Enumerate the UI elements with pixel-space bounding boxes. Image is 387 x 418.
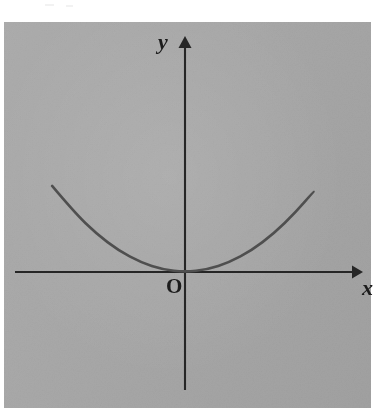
y-axis-label: y: [158, 31, 168, 53]
figure-root: y x O: [0, 0, 387, 418]
y-axis-arrowhead: [179, 36, 192, 48]
plot-drawing: [0, 0, 387, 418]
origin-label: O: [166, 276, 182, 297]
x-axis-label: x: [362, 277, 373, 299]
parabola-curve: [52, 186, 313, 272]
